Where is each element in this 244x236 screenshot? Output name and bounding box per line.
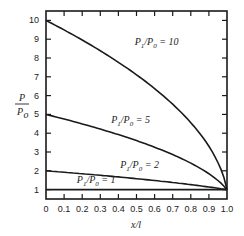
- x-tick-label: 0.5: [130, 204, 143, 214]
- x-tick-label: 0: [43, 204, 48, 214]
- y-tick-label: 7: [34, 72, 39, 82]
- curve-labels: P1/P0 = 10P1/P0 = 5P1/P0 = 2P1/P0 = 1: [76, 36, 179, 188]
- x-tick-label: 0.9: [203, 204, 216, 214]
- curve-label: P1/P0 = 5: [110, 114, 150, 128]
- x-tick-label: 0.2: [76, 204, 89, 214]
- curve-label: P1/P0 = 10: [134, 36, 179, 50]
- x-tick-label: 0.7: [166, 204, 179, 214]
- x-axis-title: x/l: [130, 219, 141, 230]
- y-axis-title-numerator: P: [18, 92, 25, 103]
- y-tick-label: 9: [34, 34, 39, 44]
- y-tick-label: 1: [34, 185, 39, 195]
- curve-label: P1/P0 = 1: [76, 174, 116, 188]
- y-axis-title: P P o: [15, 92, 29, 120]
- y-tick-label: 2: [34, 166, 39, 176]
- curve-label: P1/P0 = 2: [119, 159, 159, 173]
- y-tick-label: 10: [29, 15, 39, 25]
- y-tick-label: 6: [34, 91, 39, 101]
- x-tick-label: 0.3: [94, 204, 107, 214]
- pressure-ratio-chart: 00.10.20.30.40.50.60.70.80.91.0 12345678…: [0, 0, 244, 236]
- y-tick-label: 8: [34, 53, 39, 63]
- x-tick-label: 0.1: [58, 204, 71, 214]
- x-tick-label: 0.4: [112, 204, 125, 214]
- curve-series: [46, 171, 227, 190]
- x-tick-label: 1.0: [221, 204, 234, 214]
- y-tick-label: 4: [34, 128, 39, 138]
- y-tick-label: 5: [34, 109, 39, 119]
- x-tick-label: 0.8: [185, 204, 198, 214]
- y-axis-title-denominator-sub: o: [24, 109, 29, 120]
- y-tick-label: 3: [34, 147, 39, 157]
- x-tick-label: 0.6: [148, 204, 161, 214]
- y-axis-title-denominator: P: [16, 106, 23, 117]
